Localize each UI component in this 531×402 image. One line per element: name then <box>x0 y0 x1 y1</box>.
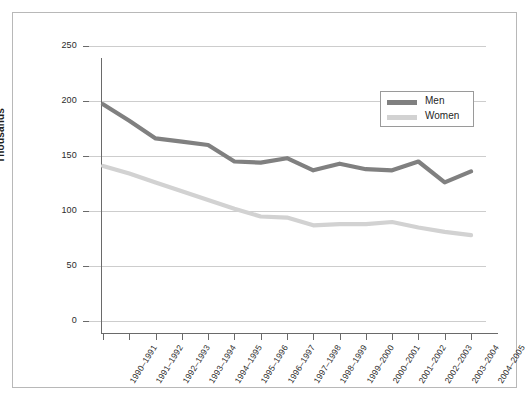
legend-swatch-women <box>387 115 417 120</box>
chart-frame: Thousands 050100150200250 1990–19911991–… <box>12 12 517 388</box>
legend-swatch-men <box>387 100 417 105</box>
legend-label-men: Men <box>425 95 444 106</box>
legend-item-men: Men <box>387 95 471 109</box>
series-plot <box>13 13 518 389</box>
legend-label-women: Women <box>425 110 459 121</box>
series-line-women <box>103 166 471 235</box>
legend-item-women: Women <box>387 110 471 124</box>
y-axis-title: Thousands <box>0 108 6 163</box>
chart-screenshot: Thousands 050100150200250 1990–19911991–… <box>0 0 531 402</box>
legend: Men Women <box>380 91 474 127</box>
